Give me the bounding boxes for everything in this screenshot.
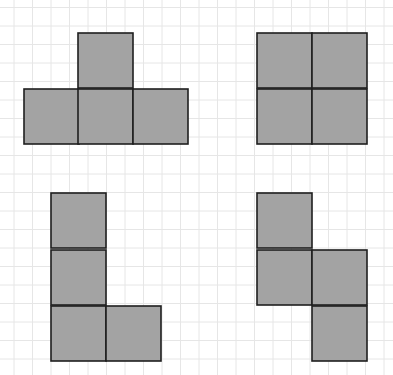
- square-cell: [51, 250, 106, 305]
- square-cell: [106, 306, 161, 361]
- square-cell: [257, 33, 312, 88]
- square-cell: [312, 33, 367, 88]
- square-cell: [257, 250, 312, 305]
- shapes-layer: [24, 33, 367, 361]
- square-cell: [312, 250, 367, 305]
- tetromino-diagram: [0, 0, 393, 375]
- t-tetromino: [24, 33, 188, 144]
- square-cell: [257, 193, 312, 248]
- square-cell: [133, 89, 188, 144]
- square-cell: [312, 89, 367, 144]
- square-cell: [78, 33, 133, 88]
- l-tetromino: [51, 193, 161, 361]
- square-cell: [312, 306, 367, 361]
- square-cell: [51, 193, 106, 248]
- square-cell: [78, 89, 133, 144]
- square-cell: [51, 306, 106, 361]
- o-tetromino: [257, 33, 367, 144]
- square-cell: [257, 89, 312, 144]
- square-cell: [24, 89, 79, 144]
